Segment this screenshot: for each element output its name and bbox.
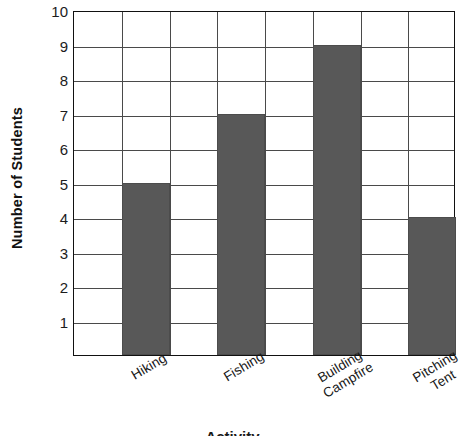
bar[interactable]: [217, 114, 265, 356]
bar[interactable]: [408, 217, 456, 355]
vertical-gridline: [361, 12, 362, 355]
y-axis-tick-label: 9: [38, 38, 68, 53]
vertical-gridline: [170, 12, 171, 355]
horizontal-gridline: [74, 47, 454, 48]
y-axis-tick-labels: 12345678910: [36, 0, 68, 436]
plot-inner: [74, 12, 454, 355]
y-axis-tick-label: 8: [38, 73, 68, 88]
y-axis-tick-label: 7: [38, 107, 68, 122]
y-axis-tick-label: 2: [38, 280, 68, 295]
y-axis-title-text: Number of Students: [9, 107, 25, 249]
y-axis-tick-label: 6: [38, 142, 68, 157]
y-axis-tick-label: 1: [38, 314, 68, 329]
y-axis-tick-label: 5: [38, 176, 68, 191]
y-axis-tick-label: 10: [38, 4, 68, 19]
plot-area: [73, 11, 455, 356]
bar[interactable]: [122, 183, 170, 356]
y-axis-tick-label: 4: [38, 211, 68, 226]
y-axis-tick-label: 3: [38, 245, 68, 260]
chart-title: [0, 0, 465, 2]
y-axis-title: Number of Students: [2, 0, 32, 356]
bar[interactable]: [313, 45, 361, 356]
vertical-gridline: [265, 12, 266, 355]
x-axis-title: Activity: [0, 428, 465, 436]
bar-chart: Number of Students 12345678910 HikingFis…: [0, 0, 465, 436]
x-axis-tick-labels: HikingFishingBuilding CampfirePitching T…: [73, 356, 455, 436]
horizontal-gridline: [74, 81, 454, 82]
